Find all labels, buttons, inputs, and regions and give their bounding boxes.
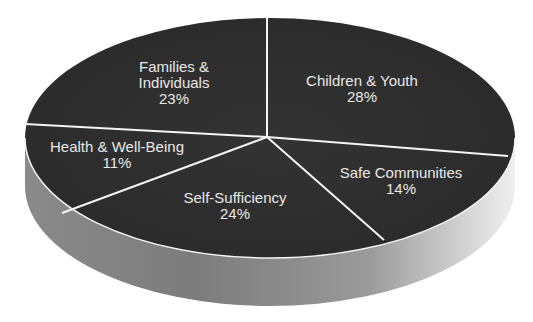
slice-name-cont: Individuals xyxy=(139,75,210,91)
slice-label-families-individuals: Families & Individuals 23% xyxy=(139,59,210,107)
slice-label-children-youth: Children & Youth 28% xyxy=(306,73,418,105)
slice-percent: 28% xyxy=(306,89,418,105)
slice-label-self-sufficiency: Self-Sufficiency 24% xyxy=(183,190,286,222)
slice-name: Safe Communities xyxy=(340,165,463,181)
slice-percent: 11% xyxy=(50,155,184,171)
slice-label-health-well-being: Health & Well-Being 11% xyxy=(50,139,184,171)
slice-percent: 14% xyxy=(340,181,463,197)
slice-name: Children & Youth xyxy=(306,73,418,89)
slice-name: Self-Sufficiency xyxy=(183,190,286,206)
slice-label-safe-communities: Safe Communities 14% xyxy=(340,165,463,197)
slice-name: Health & Well-Being xyxy=(50,139,184,155)
slice-percent: 23% xyxy=(139,91,210,107)
slice-percent: 24% xyxy=(183,206,286,222)
slice-name: Families & xyxy=(139,59,210,75)
